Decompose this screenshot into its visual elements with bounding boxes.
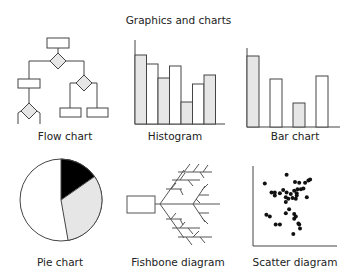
scatter-point <box>293 180 297 184</box>
scatter-point <box>297 181 301 185</box>
histogram-chart <box>135 40 225 124</box>
scatter-point <box>274 222 278 226</box>
scatter-point <box>291 196 295 200</box>
fishbone-diagram <box>127 164 220 245</box>
scatter-point <box>285 190 289 194</box>
label-flow-chart: Flow chart <box>5 130 125 142</box>
flow-chart <box>18 38 108 124</box>
scatter-point <box>289 192 293 196</box>
pie-chart <box>20 159 102 241</box>
scatter-point <box>287 207 291 211</box>
scatter-point <box>292 217 296 221</box>
label-pie-chart: Pie chart <box>0 256 120 268</box>
label-scatter-diagram: Scatter diagram <box>235 256 355 268</box>
label-fishbone-diagram: Fishbone diagram <box>118 256 238 268</box>
scatter-point <box>284 211 288 215</box>
scatter-point <box>278 191 282 195</box>
scatter-point <box>298 226 302 230</box>
scatter-point <box>303 181 307 185</box>
scatter-point <box>285 173 289 177</box>
scatter-point <box>301 186 305 190</box>
scatter-point <box>286 197 290 201</box>
scatter-point <box>268 214 272 218</box>
scatter-diagram <box>253 166 337 246</box>
bar-chart <box>247 48 340 127</box>
scatter-point <box>264 213 268 217</box>
scatter-point <box>273 194 277 198</box>
scatter-point <box>295 194 299 198</box>
scatter-point <box>263 182 267 186</box>
scatter-point <box>296 222 300 226</box>
scatter-point <box>308 178 312 182</box>
scatter-point <box>305 195 309 199</box>
scatter-point <box>270 190 274 194</box>
scatter-point <box>281 188 285 192</box>
scatter-point <box>291 232 295 236</box>
label-bar-chart: Bar chart <box>235 130 355 142</box>
label-histogram: Histogram <box>115 130 235 142</box>
scatter-point <box>284 200 288 204</box>
scatter-point <box>278 222 282 226</box>
